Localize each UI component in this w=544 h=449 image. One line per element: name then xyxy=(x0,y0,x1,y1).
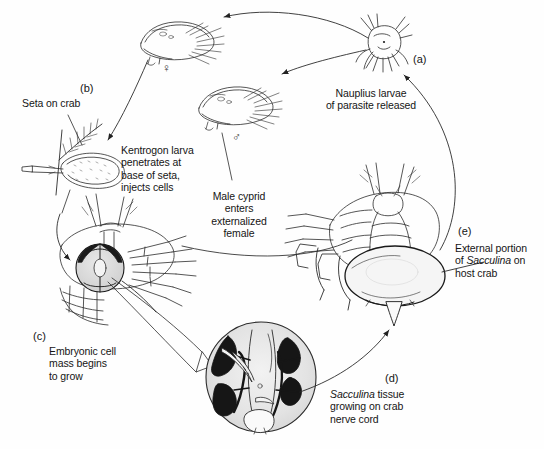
sacculina-genus-e: Sacculina xyxy=(466,254,511,266)
stage-caption-e: External portion of Sacculina on host cr… xyxy=(455,242,543,279)
seta-on-crab-label: Seta on crab xyxy=(22,97,122,109)
sacculina-life-cycle-figure: (a) Nauplius larvae of parasite released… xyxy=(0,0,544,449)
male-cyprid-label: Male cyprid enters externalized female xyxy=(200,190,278,240)
female-symbol: ♀ xyxy=(162,62,171,74)
stage-tag-e: (e) xyxy=(458,225,471,237)
stage-tag-a: (a) xyxy=(413,53,426,65)
leader-male-cyprid xyxy=(222,133,232,180)
nauplius-larva-drawing xyxy=(356,14,412,72)
stage-caption-b: Kentrogon larva penetrates at base of se… xyxy=(121,144,217,194)
sacculina-genus-d: Sacculina xyxy=(330,388,375,400)
arrow-c-to-d-upper xyxy=(112,278,202,352)
nerve-cord-microscope-drawing xyxy=(206,322,316,434)
arrow-nauplius-to-female-cyprid xyxy=(224,12,368,38)
crab-ventral-drawing xyxy=(60,194,196,325)
arrow-kentrogon-to-embryonic-mass xyxy=(57,214,70,260)
stage-caption-d: Sacculina tissue growing on crab nerve c… xyxy=(330,388,450,425)
crab-with-external-sacculina-drawing xyxy=(285,163,445,326)
arrow-nauplius-to-male-cyprid xyxy=(282,50,366,74)
stage-tag-b: (b) xyxy=(80,82,93,94)
stage-tag-d: (d) xyxy=(385,372,398,384)
female-cyprid-drawing xyxy=(141,22,224,65)
male-symbol: ♂ xyxy=(232,131,241,143)
male-cyprid-drawing xyxy=(199,87,282,130)
stage-caption-c: Embryonic cell mass begins to grow xyxy=(49,345,159,382)
stage-tag-c: (c) xyxy=(33,330,46,342)
leader-seta-on-crab xyxy=(68,115,82,145)
stage-caption-a: Nauplius larvae of parasite released xyxy=(306,87,436,112)
leader-kentrogon-down xyxy=(62,190,70,213)
kentrogon-larva-drawing xyxy=(22,119,124,195)
